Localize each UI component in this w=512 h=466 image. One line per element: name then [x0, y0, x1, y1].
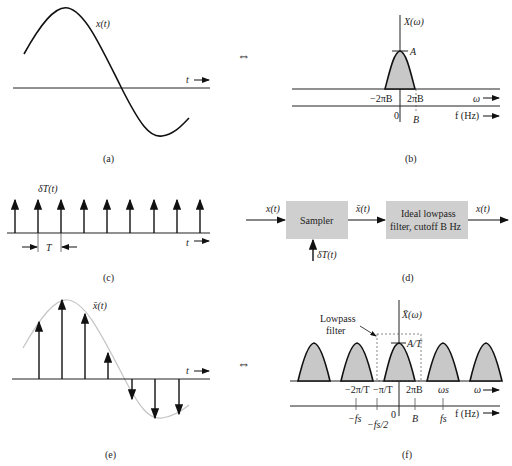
panel-b: X(ω) A −2πB 2πB ω 0 B f (Hz) (b): [292, 15, 500, 165]
panel-f: Lowpass filter X̄(ω) A/T −2π/T −π/T 2πB …: [290, 300, 502, 461]
panel-c: δT(t) T t (c): [7, 183, 210, 284]
tick-2piB: 2πB: [406, 384, 423, 395]
f-label: f (Hz): [455, 408, 479, 420]
t-label: t: [186, 74, 189, 85]
filter-label-1: Ideal lowpass: [401, 208, 456, 219]
omega-label: ω: [473, 93, 480, 104]
sampled-impulses: [39, 300, 179, 418]
tick-0: 0: [394, 110, 399, 121]
tick-B: B: [412, 413, 418, 424]
tick-neg-pi-T: −π/T: [373, 384, 393, 395]
equivalence-icon: ⇔: [237, 48, 250, 63]
impulse-label: δT(t): [38, 183, 58, 195]
signal-label: x(t): [95, 18, 111, 30]
peak-label: A: [409, 46, 417, 57]
filter-pointer-arrow-icon: [360, 326, 376, 336]
caption-c: (c): [103, 272, 114, 284]
tick-0: 0: [391, 409, 396, 420]
input-label: x(t): [265, 203, 281, 215]
envelope-curve: [23, 300, 189, 418]
mid-label: x̄(t): [355, 203, 371, 215]
equivalence-icon: ⇔: [237, 356, 250, 371]
tick-2piB: 2πB: [407, 93, 424, 104]
panel-e: x̄(t) t (e): [12, 300, 210, 461]
tick-neg-2piB: −2πB: [370, 93, 393, 104]
period-label: T: [46, 242, 53, 253]
spectrum-title: X̄(ω): [401, 309, 422, 321]
impulse-input-label: δT(t): [317, 249, 337, 261]
impulse-train: [15, 200, 200, 233]
caption-e: (e): [105, 449, 116, 461]
filter-label-2: filter: [326, 325, 346, 336]
tick-B: B: [413, 114, 419, 125]
caption-f: (f): [402, 449, 412, 461]
caption-b: (b): [405, 153, 417, 165]
t-label: t: [186, 237, 189, 248]
peak-label: A/T: [406, 338, 423, 349]
filter-label-1: Lowpass: [320, 313, 356, 324]
tick-omega-s: ωs: [438, 384, 449, 395]
spectrum-title: X(ω): [403, 16, 424, 28]
filter-label-2: filter, cutoff B Hz: [390, 221, 462, 232]
omega-label: ω: [474, 384, 481, 395]
output-label: x(t): [475, 203, 491, 215]
tick-neg-2pi-T: −2π/T: [345, 384, 370, 395]
sampling-theorem-figure: x(t) t (a) ⇔ ⇔ X(ω) A −2πB 2πB ω 0 B f (…: [0, 0, 512, 466]
panel-a: x(t) t (a): [13, 8, 210, 165]
caption-d: (d): [402, 272, 414, 284]
lowpass-filter-block: [386, 201, 468, 239]
tick-neg-fs-half: −fs/2: [367, 419, 388, 430]
tick-neg-fs: −fs: [348, 413, 362, 424]
sampler-label: Sampler: [300, 215, 334, 226]
panel-d: x(t) Sampler x̄(t) Ideal lowpass filter,…: [246, 201, 508, 284]
t-label: t: [186, 365, 189, 376]
caption-a: (a): [103, 153, 114, 165]
sampled-signal-label: x̄(t): [92, 300, 108, 312]
spectrum-replicas: [298, 343, 502, 381]
tick-fs: fs: [440, 413, 447, 424]
f-label: f (Hz): [455, 110, 479, 122]
